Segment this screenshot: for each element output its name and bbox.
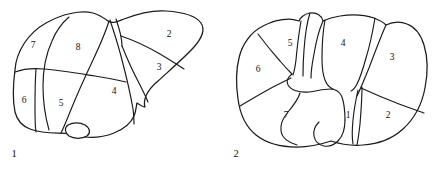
segment-label-5-right: 5 (288, 38, 293, 48)
segment-label-3-left: 3 (157, 62, 162, 72)
figure-caption-1: 1 (11, 148, 16, 159)
segment-label-4-left: 4 (112, 86, 117, 96)
segment-label-8-left: 8 (76, 42, 81, 52)
segment-label-5-left: 5 (59, 98, 64, 108)
gallbladder-anterior (65, 123, 89, 139)
panel-left-drawing (14, 11, 203, 138)
segment-label-2-left: 2 (167, 29, 172, 39)
liver-segment-figure: 7 8 2 3 6 5 4 1 (0, 0, 439, 170)
panel-right-drawing (237, 13, 428, 147)
figure-caption-2: 2 (233, 148, 238, 159)
segment-label-1-right: 1 (346, 110, 351, 120)
segment-label-7-right: 7 (284, 110, 289, 120)
segment-label-4-right: 4 (341, 38, 346, 48)
segment-label-3-right: 3 (390, 52, 395, 62)
segment-label-6-left: 6 (22, 95, 27, 105)
segment-label-2-right: 2 (386, 110, 391, 120)
segment-label-7-left: 7 (31, 40, 36, 50)
liver-outline-inferior (237, 13, 428, 147)
liver-outline-anterior (14, 11, 203, 138)
segment-label-6-right: 6 (256, 64, 261, 74)
